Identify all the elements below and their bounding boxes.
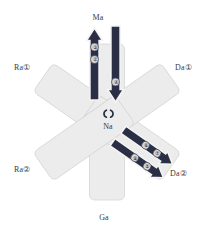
paired-arcs-glyph [104, 110, 113, 117]
center-glyph-layer [0, 0, 215, 234]
label-ra2: Ra② [14, 166, 31, 174]
label-na: Na [103, 123, 113, 131]
label-da1: Da① [175, 64, 192, 72]
label-ma: Ma [92, 14, 103, 22]
diagram-canvas: ③ ② ④ ⑦ ⑥ [0, 0, 215, 234]
label-ra1: Ra① [14, 64, 31, 72]
label-da2: Da② [170, 170, 187, 178]
label-ga: Ga [99, 214, 109, 222]
